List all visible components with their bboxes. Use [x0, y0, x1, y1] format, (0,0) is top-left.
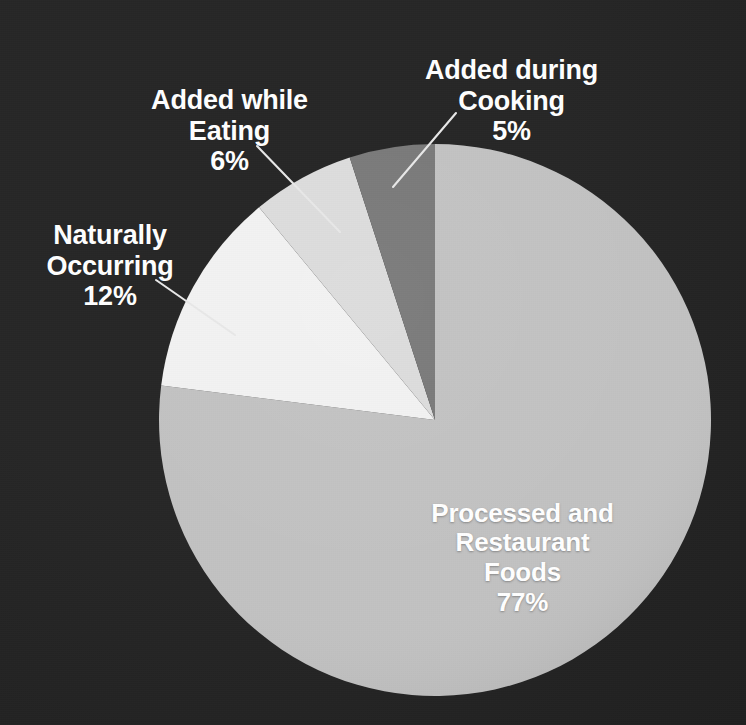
slice-label-text-naturally-occurring: Naturally Occurring — [46, 220, 173, 281]
slice-label-added-during-cooking: Added during Cooking 5% — [404, 24, 619, 178]
slice-label-text-processed-and-restaurant-foods: Processed and Restaurant Foods — [431, 498, 613, 587]
slice-value-processed-and-restaurant-foods: 77% — [400, 588, 645, 618]
slice-label-processed-and-restaurant-foods: Processed and Restaurant Foods 77% — [400, 469, 645, 647]
slice-label-text-added-during-cooking: Added during Cooking — [425, 55, 598, 116]
slice-label-text-added-while-eating: Added while Eating — [151, 85, 308, 146]
slice-label-naturally-occurring: Naturally Occurring 12% — [10, 189, 210, 343]
slice-value-added-while-eating: 6% — [122, 146, 337, 177]
slice-value-added-during-cooking: 5% — [404, 116, 619, 147]
slice-value-naturally-occurring: 12% — [10, 281, 210, 312]
slice-label-added-while-eating: Added while Eating 6% — [122, 54, 337, 208]
pie-chart-figure: Added during Cooking 5% Added while Eati… — [0, 0, 746, 725]
